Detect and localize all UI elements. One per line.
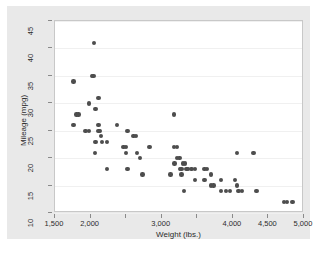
x-tick-5000: [303, 214, 304, 218]
x-axis-title: Weight (lbs.): [54, 230, 303, 239]
y-tick-35: [48, 75, 52, 76]
x-tick-1500: [54, 214, 55, 218]
gridline-y-15: [55, 186, 302, 187]
data-point: [93, 140, 97, 144]
y-axis-title: Mileage (mpg): [19, 81, 28, 161]
data-point: [105, 140, 109, 144]
data-point: [105, 167, 109, 171]
data-point: [98, 129, 102, 133]
data-point: [233, 178, 237, 182]
data-point: [235, 183, 239, 187]
y-tick-label-40: 40: [27, 47, 35, 69]
y-tick-10: [48, 212, 52, 213]
data-point: [100, 140, 104, 144]
data-point: [193, 178, 197, 182]
data-point: [92, 41, 96, 45]
data-point: [124, 145, 128, 149]
plot-region: [54, 20, 303, 212]
gridline-y-40: [55, 48, 302, 49]
data-point: [140, 172, 144, 176]
y-tick-label-45: 45: [27, 20, 35, 42]
data-point: [179, 167, 183, 171]
data-point: [134, 134, 138, 138]
data-point: [219, 178, 223, 182]
graph-surround: 1015202530354045 1,5002,0003,0004,0004,5…: [7, 6, 310, 239]
y-tick-20: [48, 157, 52, 158]
y-tick-45: [48, 20, 52, 21]
y-axis-line: [7, 6, 8, 198]
data-point: [99, 134, 103, 138]
data-point: [285, 200, 289, 204]
x-tick-4500: [267, 214, 268, 218]
y-tick-15: [48, 185, 52, 186]
data-point: [219, 189, 223, 193]
x-tick-label-4500: 4,500: [258, 219, 277, 228]
data-point: [71, 79, 75, 83]
data-point: [91, 74, 95, 78]
data-point: [193, 167, 197, 171]
data-point: [172, 112, 176, 116]
y-tick-label-35: 35: [27, 75, 35, 97]
y-tick-label-30: 30: [27, 102, 35, 124]
data-point: [172, 161, 176, 165]
data-point: [209, 172, 213, 176]
data-point: [124, 151, 128, 155]
x-tick-label-5000: 5,000: [294, 219, 313, 228]
x-tick-3000: [161, 214, 162, 218]
data-point: [182, 189, 186, 193]
x-tick-3500: [196, 214, 197, 218]
data-point: [254, 189, 258, 193]
x-tick-2000: [90, 214, 91, 218]
data-point: [87, 129, 91, 133]
data-point: [228, 189, 232, 193]
gridline-y-10: [55, 213, 302, 214]
data-point: [71, 123, 75, 127]
x-tick-2500: [125, 214, 126, 218]
data-point: [251, 151, 255, 155]
data-point: [76, 112, 80, 116]
data-point: [138, 156, 142, 160]
x-tick-label-2000: 2,000: [80, 219, 99, 228]
y-tick-30: [48, 102, 52, 103]
data-point: [235, 151, 239, 155]
data-point: [175, 145, 179, 149]
y-tick-40: [48, 47, 52, 48]
data-point: [135, 151, 139, 155]
data-point: [125, 167, 129, 171]
data-point: [177, 156, 181, 160]
data-point: [93, 151, 97, 155]
data-point: [240, 189, 244, 193]
x-tick-label-1500: 1,500: [45, 219, 64, 228]
gridline-y-25: [55, 131, 302, 132]
y-tick-25: [48, 130, 52, 131]
y-tick-label-20: 20: [27, 157, 35, 179]
x-tick-label-4000: 4,000: [223, 219, 242, 228]
data-point: [183, 161, 187, 165]
data-point: [179, 172, 183, 176]
data-point: [93, 107, 97, 111]
data-point: [96, 123, 100, 127]
data-point: [202, 178, 206, 182]
scatter-plot-screenshot: 1015202530354045 1,5002,0003,0004,0004,5…: [0, 0, 317, 253]
data-point: [205, 167, 209, 171]
data-point: [87, 101, 91, 105]
y-tick-label-25: 25: [27, 130, 35, 152]
data-point: [115, 123, 119, 127]
gridline-y-45: [55, 21, 302, 22]
data-point: [290, 200, 294, 204]
data-point: [211, 183, 215, 187]
data-point: [147, 145, 151, 149]
data-point: [168, 172, 172, 176]
y-tick-label-10: 10: [27, 212, 35, 234]
gridline-y-30: [55, 103, 302, 104]
y-tick-label-15: 15: [27, 185, 35, 207]
data-point: [125, 129, 129, 133]
data-point: [96, 96, 100, 100]
x-tick-4000: [232, 214, 233, 218]
x-tick-label-3000: 3,000: [151, 219, 170, 228]
